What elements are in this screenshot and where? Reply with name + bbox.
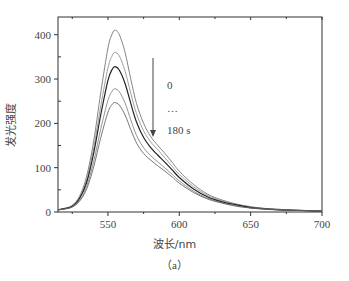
ellipsis-label: … xyxy=(167,102,178,114)
spectrum-curve xyxy=(58,103,322,212)
y-tick-label: 100 xyxy=(35,162,52,174)
spectrum-curve xyxy=(58,67,322,212)
x-tick-label: 550 xyxy=(100,218,117,230)
x-tick-label: 600 xyxy=(171,218,188,230)
spectrum-curves xyxy=(58,30,322,211)
x-tick-label: 650 xyxy=(242,218,259,230)
y-tick-label: 200 xyxy=(35,117,52,129)
y-tick-label: 400 xyxy=(35,29,52,41)
end-time-label: 180 s xyxy=(167,124,191,136)
y-axis-title: 发光强度 xyxy=(4,103,18,147)
y-tick-label: 300 xyxy=(35,73,52,85)
figure-caption: （a） xyxy=(0,256,349,272)
y-tick-label: 0 xyxy=(46,206,52,218)
x-tick-label: 700 xyxy=(314,218,331,230)
time-annotation: 0 … 180 s xyxy=(150,58,191,137)
arrowhead-icon xyxy=(150,130,156,137)
start-time-label: 0 xyxy=(167,79,173,91)
x-axis-title: 波长/nm xyxy=(0,235,349,251)
